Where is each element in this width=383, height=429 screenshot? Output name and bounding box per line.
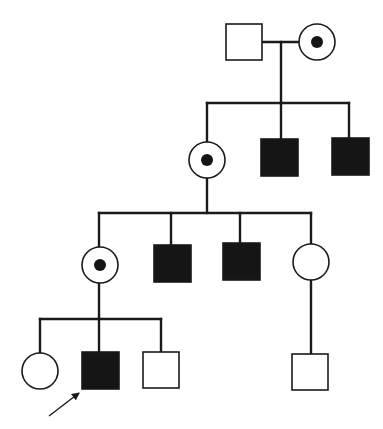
individual-III-1 <box>82 247 118 283</box>
individual-IV-4 <box>292 354 328 390</box>
individual-I-2 <box>299 24 335 60</box>
male-square-icon <box>143 352 179 388</box>
male-square-icon <box>226 24 262 60</box>
pedigree-diagram <box>0 0 383 429</box>
individual-II-3 <box>332 138 369 175</box>
individual-III-2 <box>154 245 191 282</box>
proband-arrow-icon <box>49 393 79 416</box>
individual-III-4 <box>293 244 329 280</box>
individual-II-1 <box>189 142 225 178</box>
female-circle-icon <box>293 244 329 280</box>
affected-male-square-icon <box>223 243 260 280</box>
affected-male-square-icon <box>261 139 298 176</box>
proband-arrow <box>49 393 79 416</box>
individual-II-2 <box>261 139 298 176</box>
individual-I-1 <box>226 24 262 60</box>
connector-lines <box>40 42 349 354</box>
carrier-dot-icon <box>311 36 323 48</box>
female-circle-icon <box>22 353 58 389</box>
affected-male-square-icon <box>332 138 369 175</box>
individuals <box>22 24 369 390</box>
affected-male-square-icon <box>154 245 191 282</box>
carrier-dot-icon <box>201 154 213 166</box>
male-square-icon <box>292 354 328 390</box>
pedigree-svg <box>0 0 383 429</box>
individual-IV-2 <box>82 352 119 389</box>
individual-IV-1 <box>22 353 58 389</box>
individual-III-3 <box>223 243 260 280</box>
affected-male-square-icon <box>82 352 119 389</box>
individual-IV-3 <box>143 352 179 388</box>
carrier-dot-icon <box>94 259 106 271</box>
